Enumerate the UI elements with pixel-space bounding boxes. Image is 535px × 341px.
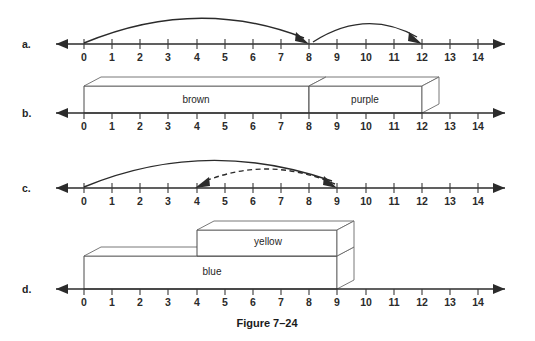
tick-label-5: 5 <box>222 296 228 308</box>
purple-bar-label: purple <box>351 94 379 105</box>
tick-label-6: 6 <box>250 195 256 207</box>
figure-canvas: a. <box>0 0 535 341</box>
brown-bar-top-face <box>84 77 326 86</box>
panel-d-tick-labels: 0 1 2 3 4 5 6 7 8 9 10 11 12 13 14 <box>81 296 484 308</box>
tick-label-7: 7 <box>278 195 284 207</box>
tick-label-14: 14 <box>472 51 484 63</box>
figure-7-24: a. <box>0 0 535 341</box>
tick-label-11: 11 <box>388 120 399 132</box>
tick-label-0: 0 <box>81 296 87 308</box>
tick-label-3: 3 <box>165 120 171 132</box>
panel-a-label: a. <box>22 38 31 50</box>
tick-label-6: 6 <box>250 296 256 308</box>
tick-label-2: 2 <box>137 296 143 308</box>
tick-label-1: 1 <box>109 296 115 308</box>
tick-label-1: 1 <box>109 51 115 63</box>
tick-label-12: 12 <box>416 51 428 63</box>
tick-label-7: 7 <box>278 296 284 308</box>
tick-label-11: 11 <box>388 296 399 308</box>
tick-label-3: 3 <box>165 296 171 308</box>
tick-label-2: 2 <box>137 51 143 63</box>
tick-label-10: 10 <box>360 296 372 308</box>
tick-label-11: 11 <box>388 51 399 63</box>
tick-label-5: 5 <box>222 120 228 132</box>
tick-label-7: 7 <box>278 120 284 132</box>
tick-label-8: 8 <box>306 296 312 308</box>
tick-label-13: 13 <box>444 51 456 63</box>
tick-label-12: 12 <box>416 195 428 207</box>
tick-label-2: 2 <box>137 195 143 207</box>
tick-label-9: 9 <box>334 195 340 207</box>
tick-label-3: 3 <box>165 51 171 63</box>
tick-label-8: 8 <box>306 195 312 207</box>
tick-label-8: 8 <box>306 120 312 132</box>
tick-label-12: 12 <box>416 296 428 308</box>
tick-label-6: 6 <box>250 120 256 132</box>
tick-label-0: 0 <box>81 120 87 132</box>
tick-label-8: 8 <box>306 51 312 63</box>
tick-label-5: 5 <box>222 195 228 207</box>
tick-label-14: 14 <box>472 195 484 207</box>
tick-label-9: 9 <box>334 296 340 308</box>
tick-label-14: 14 <box>472 120 484 132</box>
tick-label-4: 4 <box>194 51 200 63</box>
tick-label-6: 6 <box>250 51 256 63</box>
brown-bar-label: brown <box>182 94 209 105</box>
figure-caption: Figure 7–24 <box>236 317 298 329</box>
tick-label-2: 2 <box>137 120 143 132</box>
tick-label-4: 4 <box>194 296 200 308</box>
tick-label-10: 10 <box>360 51 372 63</box>
panel-d-label: d. <box>22 283 31 295</box>
tick-label-14: 14 <box>472 296 484 308</box>
tick-label-10: 10 <box>360 120 372 132</box>
panel-b-label: b. <box>22 107 31 119</box>
tick-label-13: 13 <box>444 120 456 132</box>
tick-label-11: 11 <box>388 195 399 207</box>
tick-label-5: 5 <box>222 51 228 63</box>
purple-bar-top-face <box>309 77 439 86</box>
yellow-bar-top-face <box>197 221 354 230</box>
tick-label-10: 10 <box>360 195 372 207</box>
tick-label-3: 3 <box>165 195 171 207</box>
yellow-bar-label: yellow <box>254 236 283 247</box>
tick-label-4: 4 <box>194 195 200 207</box>
tick-label-7: 7 <box>278 51 284 63</box>
panel-c-label: c. <box>22 182 31 194</box>
tick-label-9: 9 <box>334 51 340 63</box>
tick-label-12: 12 <box>416 120 428 132</box>
tick-label-1: 1 <box>109 120 115 132</box>
tick-label-1: 1 <box>109 195 115 207</box>
panel-b-bars: brown purple <box>84 77 439 113</box>
panel-a-tick-labels: 0 1 2 3 4 5 6 7 8 9 10 11 12 13 14 <box>81 51 484 63</box>
panel-c-tick-labels: 0 1 2 3 4 5 6 7 8 9 10 11 12 13 14 <box>81 195 484 207</box>
blue-bar-label: blue <box>203 266 222 277</box>
tick-label-9: 9 <box>334 120 340 132</box>
panel-b-tick-labels: 0 1 2 3 4 5 6 7 8 9 10 11 12 13 14 <box>81 120 484 132</box>
tick-label-13: 13 <box>444 195 456 207</box>
tick-label-13: 13 <box>444 296 456 308</box>
tick-label-4: 4 <box>194 120 200 132</box>
tick-label-0: 0 <box>81 195 87 207</box>
tick-label-0: 0 <box>81 51 87 63</box>
